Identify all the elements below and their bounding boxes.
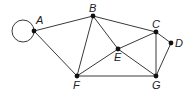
node-D xyxy=(169,41,174,46)
node-label-E: E xyxy=(114,51,122,63)
edge-D-G xyxy=(156,43,171,76)
loops xyxy=(12,20,34,42)
node-G xyxy=(154,74,159,79)
node-label-D: D xyxy=(175,37,183,49)
edges xyxy=(34,16,171,76)
node-label-F: F xyxy=(73,79,81,91)
graph-diagram: ABCDEFG xyxy=(0,0,184,94)
labels: ABCDEFG xyxy=(35,2,183,91)
node-label-C: C xyxy=(152,18,160,30)
edge-E-G xyxy=(118,49,156,76)
edge-C-D xyxy=(156,32,171,43)
edge-B-C xyxy=(93,16,156,32)
node-A xyxy=(32,29,37,34)
node-B xyxy=(91,14,96,19)
node-F xyxy=(75,74,80,79)
node-C xyxy=(154,30,159,35)
node-label-B: B xyxy=(89,2,96,14)
edge-C-E xyxy=(118,32,156,49)
node-label-A: A xyxy=(35,14,43,26)
loop-A xyxy=(12,20,34,42)
edge-A-F xyxy=(34,31,77,76)
node-label-G: G xyxy=(152,79,161,91)
